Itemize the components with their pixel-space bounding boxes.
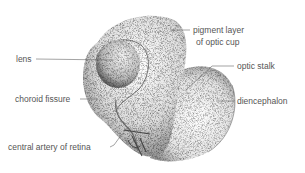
optic-cup-shape <box>83 16 186 157</box>
label-diencephalon: diencephalon <box>237 96 288 106</box>
label-central-artery-of-retina: central artery of retina <box>8 142 91 152</box>
label-lens: lens <box>16 54 32 64</box>
label-pigment-layer-line2: of optic cup <box>196 37 239 47</box>
lens-shape <box>96 40 140 88</box>
label-pigment-layer-line1: pigment layer <box>193 25 244 35</box>
label-optic-stalk: optic stalk <box>237 61 275 71</box>
optic-cup-diagram: lens choroid fissure central artery of r… <box>0 0 305 173</box>
label-choroid-fissure: choroid fissure <box>15 94 70 104</box>
